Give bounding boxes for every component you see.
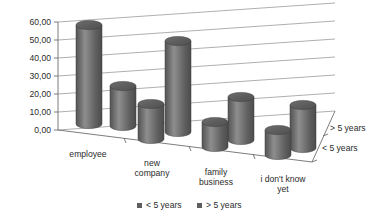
bar-gt5-family-business[interactable] xyxy=(228,92,254,144)
bar-lt5-dont-know[interactable] xyxy=(265,125,291,159)
y-tick-label-50: 50,00 xyxy=(29,35,51,45)
gridline-60 xyxy=(58,3,335,22)
bar-lt5-family-business[interactable] xyxy=(202,117,228,151)
cat-label-family-business-line2: business xyxy=(199,177,233,187)
y-tick-label-10: 10,00 xyxy=(29,107,51,117)
y-tick-label-30: 30,00 xyxy=(29,71,51,81)
y-tick-label-40: 40,00 xyxy=(29,53,51,63)
depth-label-back: > 5 years xyxy=(330,123,366,133)
y-tick-label-20: 20,00 xyxy=(29,89,51,99)
bar-lt5-employee[interactable] xyxy=(110,81,136,130)
y-tick-label-0: 0,00 xyxy=(34,125,51,135)
bar-gt5-employee[interactable] xyxy=(76,20,102,128)
legend-swatch-gt5 xyxy=(197,203,202,208)
bar-chart-3d: 60,00 50,00 40,00 30,00 20,00 10,00 0,00 xyxy=(0,0,390,221)
cat-label-dont-know-line2: yet xyxy=(277,184,289,194)
legend-label-gt5: > 5 years xyxy=(206,200,242,210)
bar-gt5-dont-know[interactable] xyxy=(290,100,316,152)
legend-label-lt5: < 5 years xyxy=(146,200,182,210)
axis-tickmarks xyxy=(54,22,58,130)
y-axis-labels: 60,00 50,00 40,00 30,00 20,00 10,00 0,00 xyxy=(29,17,51,135)
cat-label-new-company-line2: company xyxy=(135,168,171,178)
chart-container: 60,00 50,00 40,00 30,00 20,00 10,00 0,00 xyxy=(0,0,390,221)
cat-label-family-business-line1: family xyxy=(205,167,228,177)
bar-lt5-new-company[interactable] xyxy=(138,99,164,143)
depth-axis-labels: > 5 years < 5 years xyxy=(322,123,366,153)
bar-gt5-new-company[interactable] xyxy=(165,36,191,136)
cat-label-employee-line1: employee xyxy=(69,149,106,159)
legend-swatch-lt5 xyxy=(137,203,142,208)
chart-legend: < 5 years > 5 years xyxy=(137,200,242,210)
cat-label-new-company-line1: new xyxy=(144,158,161,168)
cat-label-dont-know-line1: i don't know xyxy=(260,174,306,184)
depth-label-front: < 5 years xyxy=(322,143,358,153)
y-tick-label-60: 60,00 xyxy=(29,17,51,27)
